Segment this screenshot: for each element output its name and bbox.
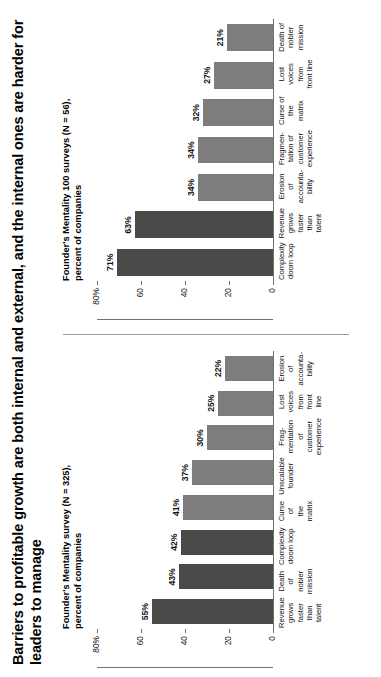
y-axis-tick-mark: [185, 629, 186, 633]
category-labels-left: Revenue grows faster than talentDeath of…: [277, 351, 323, 629]
y-axis-tick: 0: [273, 629, 274, 667]
category-label: Erosion of accounta- bility: [277, 351, 323, 386]
bar-slot: 30%: [97, 421, 273, 456]
bar: 30%: [207, 425, 273, 450]
y-axis-tick-label: 80%: [91, 288, 101, 305]
y-axis-tick: 60: [141, 281, 142, 319]
category-label: Fragmen- tation of customer experience: [277, 129, 323, 168]
category-label: Erosion of accounta- bility: [277, 168, 323, 205]
chart-subtitle-right: Founder's Mentality 100 surveys (N = 56)…: [61, 19, 85, 281]
y-axis-tick-mark: [97, 629, 98, 633]
y-axis-tick: 80%: [97, 629, 98, 667]
bar-slot: 55%: [97, 594, 273, 629]
y-axis-tick: 0: [273, 281, 274, 319]
y-axis-tick: 20: [229, 629, 230, 667]
bar: 55%: [152, 599, 273, 624]
bar: 41%: [183, 495, 273, 520]
x-axis-line-left: [273, 351, 274, 629]
bar-slot: 27%: [97, 56, 273, 93]
bar-value-label: 30%: [195, 429, 205, 446]
bar-value-label: 21%: [215, 29, 225, 46]
y-axis-tick-label: 60: [135, 636, 145, 645]
category-label: Curse of the matrix: [277, 92, 323, 129]
y-axis-tick-mark: [229, 629, 230, 633]
y-axis-tick: 60: [141, 629, 142, 667]
figure-container: Barriers to profitable growth are both i…: [0, 0, 381, 677]
y-axis-tick-mark: [273, 281, 274, 285]
bar-slot: 63%: [97, 206, 273, 243]
bar-value-label: 22%: [213, 360, 223, 377]
y-axis-tick-mark: [185, 281, 186, 285]
chart-panel-left: Founder's Mentality survey (N = 325), pe…: [61, 337, 315, 667]
bar-value-label: 34%: [186, 179, 196, 196]
y-axis-tick: 80%: [97, 281, 98, 319]
y-axis-tick-mark: [141, 629, 142, 633]
y-axis-left: 80%6040200: [97, 629, 273, 667]
bar: 43%: [179, 564, 274, 589]
bar-value-label: 41%: [171, 499, 181, 516]
y-axis-tick-label: 0: [267, 636, 277, 641]
bar: 25%: [218, 391, 273, 416]
bar-slot: 32%: [97, 94, 273, 131]
y-axis-tick-mark: [141, 281, 142, 285]
bar-value-label: 34%: [186, 141, 196, 158]
y-axis-tick-label: 80%: [91, 636, 101, 653]
category-label: Death of nobler mission: [277, 566, 323, 597]
y-axis-tick: 20: [229, 281, 230, 319]
bar: 63%: [135, 211, 274, 238]
y-axis-tick-label: 0: [267, 288, 277, 293]
category-label: Unscalable founder: [277, 456, 323, 496]
y-axis-tick-label: 20: [223, 288, 233, 297]
plot-area-left: 80%6040200 55%43%42%41%37%30%25%22% Reve…: [97, 351, 315, 629]
bar: 22%: [225, 356, 273, 381]
bar-value-label: 27%: [202, 67, 212, 84]
category-label: Lost voices from front line: [277, 56, 323, 93]
bar: 21%: [227, 24, 273, 51]
bar: 37%: [192, 460, 273, 485]
plot-area-right: 80%6040200 71%63%34%34%32%27%21% Complex…: [97, 19, 315, 281]
bar-value-label: 71%: [105, 254, 115, 271]
bar-value-label: 37%: [180, 464, 190, 481]
y-axis-line: [97, 319, 273, 320]
bar-group-right: 71%63%34%34%32%27%21%: [97, 19, 273, 281]
rotated-figure-stage: Barriers to profitable growth are both i…: [0, 0, 381, 677]
y-axis-right: 80%6040200: [97, 281, 273, 319]
category-label: Death of nobler mission: [277, 19, 323, 56]
bar-value-label: 25%: [206, 395, 216, 412]
bar-slot: 41%: [97, 490, 273, 525]
bar-value-label: 55%: [140, 603, 150, 620]
y-axis-tick: 40: [185, 281, 186, 319]
category-label: Curse of the matrix: [277, 496, 323, 527]
category-label: Frag- mentation of customer experience: [277, 417, 323, 456]
category-label: Complexity doom loop: [277, 526, 323, 566]
bar: 34%: [198, 137, 273, 164]
chart-subtitle-left: Founder's Mentality survey (N = 325), pe…: [61, 351, 85, 629]
category-labels-right: Complexity doom loopRevenue grows faster…: [277, 19, 323, 281]
bar-slot: 43%: [97, 560, 273, 595]
y-axis-tick-label: 40: [179, 288, 189, 297]
bar-slot: 34%: [97, 131, 273, 168]
bar: 34%: [198, 174, 273, 201]
bar: 32%: [203, 99, 273, 126]
bar-slot: 25%: [97, 386, 273, 421]
y-axis-tick: 40: [185, 629, 186, 667]
y-axis-line: [97, 667, 273, 668]
category-label: Complexity doom loop: [277, 241, 323, 281]
y-axis-tick-mark: [273, 629, 274, 633]
bar-value-label: 42%: [169, 534, 179, 551]
y-axis-tick-label: 60: [135, 288, 145, 297]
y-axis-tick-mark: [229, 281, 230, 285]
bar-slot: 71%: [97, 244, 273, 281]
y-axis-tick-mark: [97, 281, 98, 285]
bar-value-label: 32%: [191, 104, 201, 121]
category-label: Revenue grows faster than talent: [277, 205, 323, 242]
bar-slot: 21%: [97, 19, 273, 56]
chart-panels: Founder's Mentality survey (N = 325), pe…: [61, 8, 361, 667]
bar: 27%: [214, 62, 273, 89]
category-label: Lost voices from front line: [277, 386, 323, 417]
bar-value-label: 43%: [167, 568, 177, 585]
bar-group-left: 55%43%42%41%37%30%25%22%: [97, 351, 273, 629]
bar-slot: 22%: [97, 351, 273, 386]
bar-slot: 42%: [97, 525, 273, 560]
bar-slot: 34%: [97, 169, 273, 206]
